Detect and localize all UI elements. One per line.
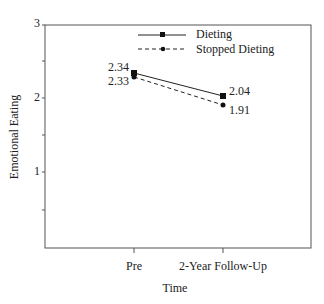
y-tick-3: 3	[34, 16, 40, 30]
y-tick-1: 1	[34, 164, 40, 178]
legend-square-icon	[160, 32, 165, 37]
legend-circle-icon	[161, 47, 166, 52]
stopped-pre-marker	[132, 75, 137, 80]
stopped-post-marker	[221, 103, 226, 108]
line-chart: 3 2 1 Pre 2-Year Follow-Up Time Emotiona…	[0, 0, 324, 304]
label-dieting-pre: 2.34	[108, 60, 129, 74]
y-tick-2: 2	[34, 90, 40, 104]
label-stopped-post: 1.91	[229, 103, 250, 117]
x-tick-pre: Pre	[126, 259, 142, 273]
plot-frame	[45, 25, 311, 248]
label-stopped-pre: 2.33	[108, 74, 129, 88]
y-axis-title: Emotional Eating	[7, 95, 21, 179]
series-dieting-line	[134, 73, 223, 96]
x-axis	[134, 248, 223, 253]
dieting-post-marker	[220, 93, 226, 99]
legend-stopped: Stopped Dieting	[196, 42, 274, 56]
label-dieting-post: 2.04	[229, 84, 250, 98]
x-tick-followup: 2-Year Follow-Up	[179, 259, 267, 273]
legend: Dieting Stopped Dieting	[138, 27, 274, 56]
series-stopped-line	[134, 77, 223, 105]
legend-dieting: Dieting	[196, 27, 232, 41]
x-axis-title: Time	[163, 281, 188, 295]
